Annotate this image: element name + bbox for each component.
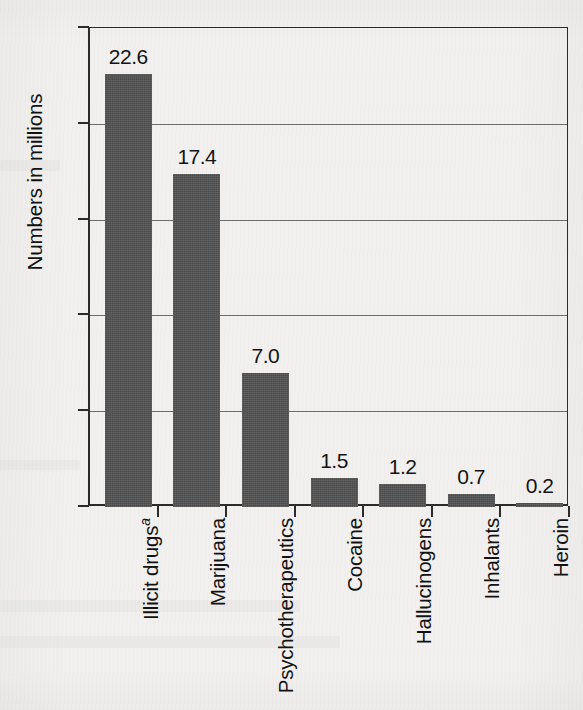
x-axis-tick-mark <box>362 506 364 517</box>
x-axis-tick-mark <box>568 506 570 517</box>
bar <box>379 484 426 507</box>
x-axis-tick-mark <box>157 506 159 517</box>
gridline <box>90 220 567 221</box>
footnote-marker: a <box>137 518 153 526</box>
bar-value-label: 22.6 <box>83 45 174 69</box>
bar-value-label: 17.4 <box>151 145 242 169</box>
x-axis-tick-mark <box>294 506 296 517</box>
x-axis-category-label: Hallucinogens <box>412 518 436 644</box>
bar-chart: Numbers in millions 0510152025 22.617.47… <box>0 0 583 710</box>
gridline <box>90 124 567 125</box>
bar <box>105 74 152 507</box>
gridline <box>90 411 567 412</box>
x-axis-tick-mark <box>431 506 433 517</box>
bar-value-label: 7.0 <box>220 344 311 368</box>
x-axis-category-label: Psychotherapeutics <box>274 518 298 693</box>
bar <box>448 494 495 507</box>
gridline <box>90 315 567 316</box>
x-axis-category-label: Inhalants <box>480 518 504 599</box>
y-axis-title: Numbers in millions <box>23 52 47 312</box>
bar <box>311 478 358 507</box>
plot-area: 22.617.47.01.51.20.70.2 <box>88 27 568 506</box>
x-axis-category-label: Illicit drugsa <box>137 518 163 620</box>
x-axis-tick-mark <box>499 506 501 517</box>
x-axis-category-label: Marijuana <box>206 518 230 606</box>
bar <box>516 503 563 507</box>
x-axis-tick-mark <box>225 506 227 517</box>
bar <box>173 174 220 507</box>
bar <box>242 373 289 507</box>
x-axis-category-label: Heroin <box>549 518 573 577</box>
bar-value-label: 0.2 <box>494 474 583 498</box>
x-axis-category-label: Cocaine <box>343 518 367 592</box>
